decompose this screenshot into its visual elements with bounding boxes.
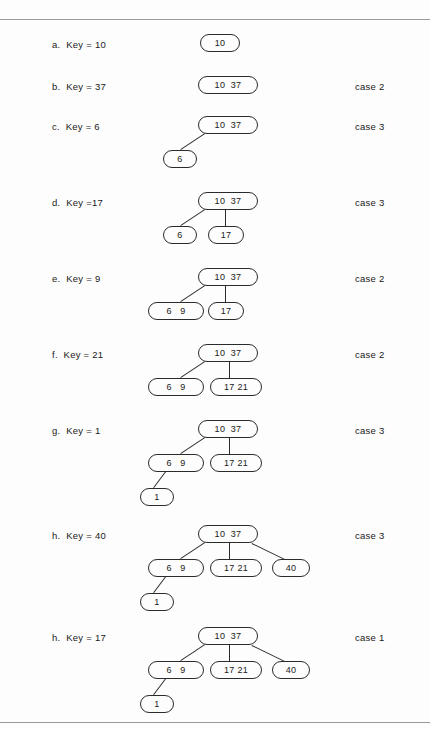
tree-edge (180, 542, 205, 559)
tree-node-root: 10 37 (198, 192, 258, 210)
case-annotation: case 3 (355, 425, 385, 436)
tree-edge (180, 361, 205, 378)
tree-node-child-middle: 17 21 (210, 559, 262, 577)
case-annotation: case 2 (355, 273, 385, 284)
tree-edge (229, 645, 230, 661)
tree-edge (229, 362, 230, 378)
tree-edge (180, 437, 205, 454)
tree-node-root: 10 37 (198, 116, 258, 134)
tree-node-child-left: 6 (163, 226, 197, 244)
case-annotation: case 2 (355, 349, 385, 360)
tree-node-root: 10 37 (198, 420, 258, 438)
case-annotation: case 3 (355, 197, 385, 208)
step-label: b. Key = 37 (52, 81, 106, 92)
case-annotation: case 3 (355, 530, 385, 541)
tree-node-grandchild-left: 1 (140, 593, 174, 611)
tree-node-child-right: 40 (272, 559, 310, 577)
tree-edge (252, 543, 285, 560)
tree-node-child-right: 40 (272, 661, 310, 679)
step-label: h. Key = 40 (52, 530, 106, 541)
case-annotation: case 3 (355, 121, 385, 132)
tree-edge (180, 133, 205, 150)
tree-edge (153, 576, 166, 593)
step-label: h. Key = 17 (52, 632, 106, 643)
step-label: e. Key = 9 (52, 273, 100, 284)
tree-node-child-left: 6 9 (148, 661, 204, 679)
tree-edge (153, 471, 166, 488)
step-label: f. Key = 21 (52, 349, 103, 360)
tree-node-root: 10 37 (198, 627, 258, 645)
step-label: a. Key = 10 (52, 39, 106, 50)
tree-node-root: 10 (200, 34, 240, 52)
tree-node-grandchild-left: 1 (140, 488, 174, 506)
tree-node-root: 10 37 (198, 76, 258, 94)
tree-edge (229, 543, 230, 559)
tree-edge (153, 678, 166, 695)
tree-edge (229, 438, 230, 454)
tree-edge (225, 286, 226, 302)
case-annotation: case 2 (355, 81, 385, 92)
tree-edge (252, 645, 285, 662)
step-label: d. Key =17 (52, 197, 103, 208)
tree-node-child-middle: 17 (208, 302, 244, 320)
bottom-divider-rule (0, 722, 430, 723)
step-label: g. Key = 1 (52, 425, 100, 436)
tree-node-root: 10 37 (198, 525, 258, 543)
tree-node-child-middle: 17 21 (210, 454, 262, 472)
tree-node-root: 10 37 (198, 344, 258, 362)
tree-edge (180, 285, 205, 302)
step-label: c. Key = 6 (52, 121, 100, 132)
tree-node-child-left: 6 (163, 150, 197, 168)
case-annotation: case 1 (355, 632, 385, 643)
tree-edge (225, 210, 226, 226)
figure-page: a. Key = 1010b. Key = 37case 210 37c. Ke… (0, 0, 430, 729)
tree-edge (180, 209, 205, 226)
tree-node-child-middle: 17 (208, 226, 244, 244)
tree-node-child-left: 6 9 (148, 454, 204, 472)
tree-node-child-middle: 17 21 (210, 378, 262, 396)
tree-edge (180, 644, 205, 661)
tree-node-child-left: 6 9 (148, 302, 204, 320)
tree-node-root: 10 37 (198, 268, 258, 286)
tree-node-child-middle: 17 21 (210, 661, 262, 679)
tree-node-child-left: 6 9 (148, 559, 204, 577)
tree-node-grandchild-left: 1 (140, 695, 174, 713)
tree-node-child-left: 6 9 (148, 378, 204, 396)
top-divider-rule (0, 19, 430, 20)
